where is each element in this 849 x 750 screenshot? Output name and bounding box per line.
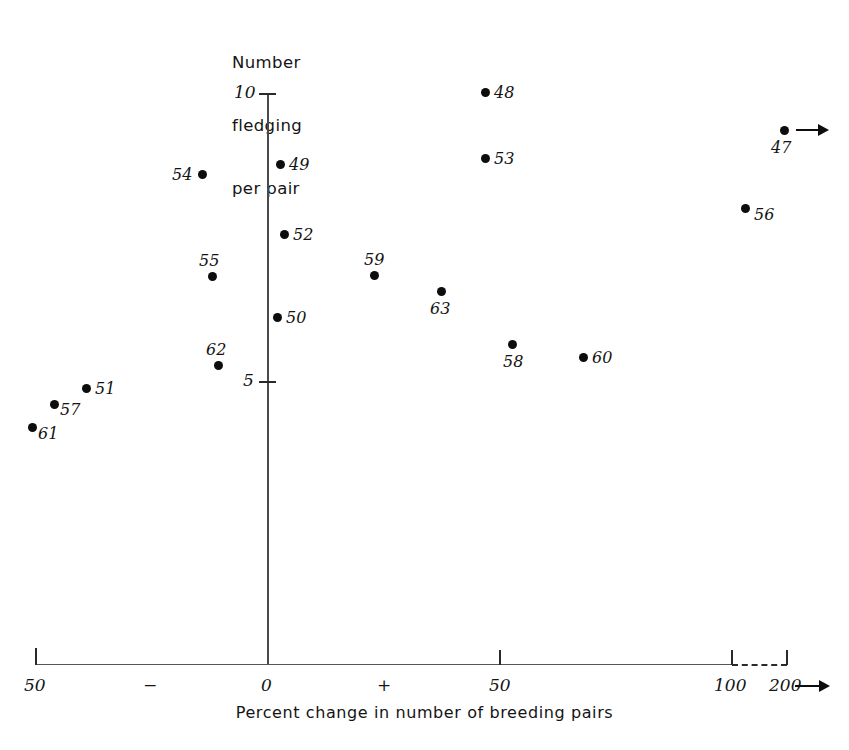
data-point-label-58: 58 [503,352,523,371]
x-tick-label-0: 0 [261,675,272,695]
x-axis-title: Percent change in number of breeding pai… [0,702,849,723]
x-tick-mark-50 [499,650,501,665]
x-tick-label-minus50: 50 [24,675,46,695]
data-point-51 [82,384,91,393]
data-point-label-62: 62 [206,340,226,359]
x-axis-line [35,664,732,665]
y-tick-mark-5 [259,381,276,383]
data-point-55 [208,272,217,281]
data-point-label-54: 54 [172,165,192,184]
data-point-label-53: 53 [494,149,514,168]
data-point-50 [273,313,282,322]
data-point-label-48: 48 [494,83,514,102]
data-point-label-55: 55 [199,251,219,270]
data-point-52 [280,230,289,239]
data-point-label-57: 57 [60,400,80,419]
data-point-58 [508,340,517,349]
y-tick-label-10: 10 [234,82,256,102]
data-point-label-52: 52 [293,225,313,244]
x-tick-label-plus-sign: + [377,675,391,695]
data-point-47 [780,126,789,135]
data-point-63 [437,287,446,296]
x-tick-label-minus-sign: − [143,675,157,695]
data-point-label-61: 61 [38,424,58,443]
data-point-54 [198,170,207,179]
x-tick-mark-100 [731,650,733,665]
data-point-label-56: 56 [754,205,774,224]
x-tick-label-100: 100 [714,675,746,695]
data-point-61 [28,423,37,432]
data-point-label-59: 59 [364,250,384,269]
scatter-plot-figure: Number fledging per pair 10 5 50 − 0 + 5… [0,0,849,750]
y-tick-mark-10 [259,93,276,95]
data-point-60 [579,353,588,362]
data-point-label-60: 60 [592,348,612,367]
data-point-label-47: 47 [771,138,791,157]
x-tick-mark-200 [786,650,788,665]
y-axis-line [267,93,269,665]
data-point-48 [481,88,490,97]
data-point-label-51: 51 [95,379,115,398]
data-point-59 [370,271,379,280]
data-point-56 [741,204,750,213]
data-point-57 [50,400,59,409]
data-point-label-50: 50 [286,308,306,327]
data-point-53 [481,154,490,163]
x-axis-break-dashed-segment [732,664,787,666]
data-point-label-63: 63 [430,299,450,318]
data-point-label-49: 49 [289,155,309,174]
off-scale-arrow-icon [796,124,830,136]
y-tick-label-5: 5 [243,370,254,390]
x-tick-label-50: 50 [489,675,511,695]
x-axis-arrow-icon [795,680,831,692]
x-tick-mark-minus50 [35,648,37,665]
data-point-49 [276,160,285,169]
y-axis-title-line-1: Number [232,52,302,73]
data-point-62 [214,361,223,370]
